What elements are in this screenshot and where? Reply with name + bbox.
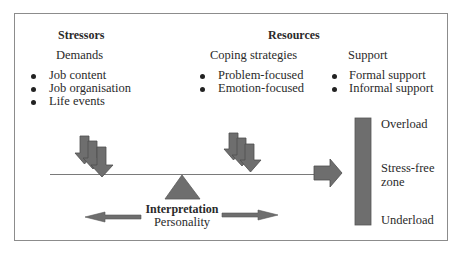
bullet-icon	[200, 74, 205, 79]
bullet-icon	[31, 74, 36, 79]
support-subheading: Support	[348, 49, 388, 62]
bullet-icon	[31, 87, 36, 92]
resource-arrows-icon	[224, 133, 261, 172]
underload-label: Underload	[381, 214, 434, 227]
personality-label: Personality	[154, 216, 210, 229]
zone-label: zone	[381, 176, 405, 189]
outcome-arrow-icon	[314, 159, 342, 187]
fulcrum-triangle-icon	[165, 175, 200, 199]
stressor-item: Life events	[49, 95, 105, 108]
bullet-icon	[200, 87, 205, 92]
resources-heading: Resources	[268, 29, 320, 42]
stressors-heading: Stressors	[58, 29, 104, 42]
bullet-icon	[31, 100, 36, 105]
coping-item: Emotion-focused	[218, 82, 304, 95]
bullet-icon	[332, 87, 337, 92]
left-arrow-icon	[85, 212, 141, 222]
stress-free-label: Stress-free	[381, 162, 434, 175]
overload-label: Overload	[381, 118, 428, 131]
demands-subheading: Demands	[56, 49, 103, 62]
support-item: Informal support	[349, 82, 433, 95]
right-arrow-icon	[222, 210, 278, 220]
coping-subheading: Coping strategies	[210, 49, 297, 62]
stress-scale-bar	[355, 118, 371, 225]
stressor-arrows-icon	[75, 136, 113, 177]
bullet-icon	[332, 74, 337, 79]
